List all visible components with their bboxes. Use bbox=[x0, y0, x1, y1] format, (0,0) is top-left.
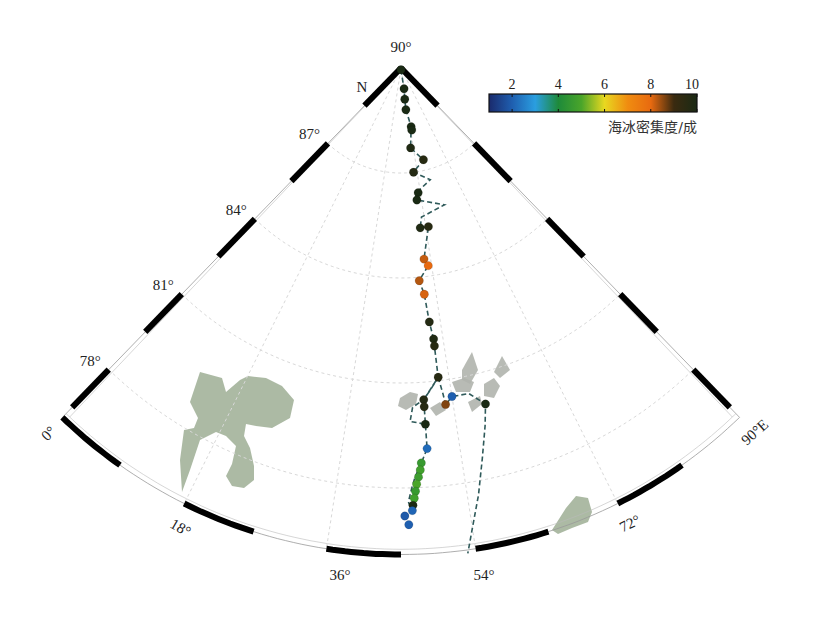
frame-arc-segment bbox=[618, 465, 682, 503]
franz-josef-land-4-land bbox=[494, 356, 510, 378]
data-point bbox=[409, 168, 417, 176]
franz-josef-land-1-land bbox=[398, 392, 418, 410]
lat-label-87: 87° bbox=[299, 126, 320, 142]
data-point bbox=[448, 392, 456, 400]
frame-tick-segment bbox=[620, 294, 657, 332]
frame-tick-segment bbox=[291, 143, 328, 181]
frame-arc-segment bbox=[476, 532, 549, 549]
franz-josef-land-6-land bbox=[468, 396, 482, 412]
data-point bbox=[401, 95, 409, 103]
polar-map: 90°N87°84°81°78°0°18°36°54°72°90°E 24681… bbox=[0, 0, 818, 625]
colorbar-tick-label: 6 bbox=[601, 77, 608, 92]
data-point bbox=[416, 224, 424, 232]
colorbar-tick-label: 10 bbox=[685, 77, 699, 92]
colorbar-legend: 246810 海冰密集度/成 bbox=[489, 77, 699, 135]
meridian-54 bbox=[401, 70, 475, 549]
data-point bbox=[397, 66, 405, 74]
lon-label-18: 18° bbox=[167, 515, 193, 539]
frame-tick-segment bbox=[547, 219, 584, 257]
frame-arc-segment bbox=[184, 504, 253, 532]
colorbar-gradient bbox=[489, 94, 697, 112]
data-point bbox=[405, 520, 413, 528]
lon-label-72: 72° bbox=[617, 512, 643, 535]
lon-label-90: 90°E bbox=[738, 416, 771, 448]
lat-label-84: 84° bbox=[226, 202, 247, 218]
latitude-circle-84 bbox=[255, 219, 547, 278]
map-frame bbox=[62, 68, 739, 555]
frame-arc-outer bbox=[62, 417, 739, 554]
data-point bbox=[424, 222, 432, 230]
data-point bbox=[402, 106, 410, 114]
data-point bbox=[423, 444, 431, 452]
svalbard-land bbox=[180, 372, 294, 492]
data-point bbox=[408, 126, 416, 134]
latitude-circle-81 bbox=[182, 294, 620, 383]
frame-arc-segment bbox=[326, 549, 401, 555]
data-point bbox=[430, 342, 438, 350]
data-point bbox=[434, 373, 442, 381]
land-layer bbox=[180, 352, 592, 534]
data-point bbox=[420, 290, 428, 298]
meridian-72 bbox=[402, 70, 618, 504]
lon-label-54: 54° bbox=[474, 567, 495, 583]
lon-label-36: 36° bbox=[330, 567, 351, 583]
data-point bbox=[400, 85, 408, 93]
frame-tick-segment bbox=[218, 219, 255, 257]
pole-label: 90° bbox=[391, 39, 412, 55]
frame-tick-segment bbox=[693, 370, 730, 408]
north-label: N bbox=[357, 79, 368, 95]
data-point bbox=[413, 196, 421, 204]
frame-tick-segment bbox=[72, 370, 109, 408]
frame-tick-segment bbox=[145, 294, 182, 332]
data-point bbox=[406, 144, 414, 152]
meridian-36 bbox=[326, 70, 400, 549]
frame-tick-segment bbox=[364, 68, 401, 106]
lat-label-81: 81° bbox=[153, 277, 174, 293]
data-point bbox=[401, 512, 409, 520]
colorbar-tick-label: 4 bbox=[555, 77, 562, 92]
data-point bbox=[420, 403, 428, 411]
data-point bbox=[421, 420, 429, 428]
data-point bbox=[415, 277, 423, 285]
frame-tick-segment bbox=[474, 143, 511, 181]
data-point bbox=[425, 318, 433, 326]
frame-arc-segment bbox=[62, 417, 120, 465]
colorbar-tick-label: 2 bbox=[509, 77, 516, 92]
franz-josef-land-5-land bbox=[484, 378, 500, 398]
graticule-grid bbox=[109, 70, 694, 549]
colorbar-tick-label: 8 bbox=[647, 77, 654, 92]
latitude-circle-87 bbox=[328, 143, 474, 173]
data-point bbox=[408, 506, 416, 514]
data-point bbox=[424, 261, 432, 269]
data-point bbox=[419, 156, 427, 164]
data-point bbox=[481, 400, 489, 408]
meridian-18 bbox=[184, 70, 400, 504]
lon-label-0: 0° bbox=[38, 423, 59, 444]
colorbar-title: 海冰密集度/成 bbox=[608, 119, 697, 135]
data-point bbox=[441, 400, 449, 408]
lat-label-78: 78° bbox=[80, 353, 101, 369]
data-point bbox=[414, 189, 422, 197]
